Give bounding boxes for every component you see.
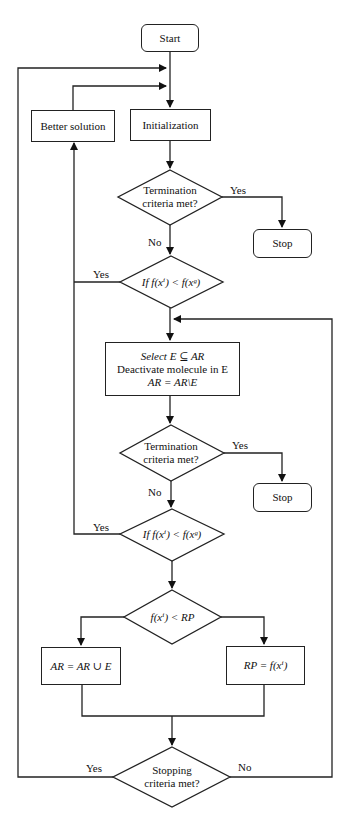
compare-2-text: If f(xⁱ) < f(xᵍ) — [143, 528, 201, 540]
termination-2-label: Termination criteria met? — [121, 440, 221, 466]
termination-2-line-1: Termination — [121, 440, 221, 453]
stop-node-1: Stop — [253, 229, 312, 258]
edge-label-t1-yes: Yes — [230, 184, 246, 196]
compare-rp-text: f(xⁱ) < RP — [151, 611, 195, 623]
better-solution-label: Better solution — [40, 120, 105, 133]
stopping-line-2: criteria met? — [122, 777, 222, 790]
start-label: Start — [160, 32, 181, 45]
initialization-label: Initialization — [142, 119, 198, 132]
edge-label-c2-yes: Yes — [93, 521, 109, 533]
edge-label-t2-no: No — [148, 486, 161, 498]
edge-label-t2-yes: Yes — [232, 439, 248, 451]
termination-2-line-2: criteria met? — [121, 453, 221, 466]
edge-label-c1-yes: Yes — [93, 268, 109, 280]
termination-1-line-1: Termination — [120, 184, 220, 197]
edge-label-t1-no: No — [148, 236, 161, 248]
select-line-3: AR = AR\E — [148, 376, 197, 389]
compare-1-label: If f(xⁱ) < f(xᵍ) — [120, 276, 222, 289]
stop-node-2: Stop — [253, 483, 312, 512]
better-solution-node: Better solution — [31, 110, 115, 142]
edge-label-stop-no: No — [238, 761, 251, 773]
compare-2-label: If f(xⁱ) < f(xᵍ) — [121, 528, 223, 541]
select-line-2: Deactivate molecule in E — [117, 363, 228, 376]
termination-1-line-2: criteria met? — [120, 197, 220, 210]
stop-label-2: Stop — [272, 491, 292, 504]
compare-1-text: If f(xⁱ) < f(xᵍ) — [142, 276, 200, 288]
select-line-1: Select E ⊆ AR — [141, 350, 205, 363]
stopping-label: Stopping criteria met? — [122, 764, 222, 790]
edge-label-stop-yes: Yes — [86, 762, 102, 774]
stop-label-1: Stop — [272, 237, 292, 250]
termination-1-label: Termination criteria met? — [120, 184, 220, 210]
rp-assign-label: RP = f(xⁱ) — [244, 659, 288, 672]
ar-union-node: AR = AR ∪ E — [41, 647, 121, 685]
start-node: Start — [141, 24, 199, 52]
compare-rp-label: f(xⁱ) < RP — [124, 611, 221, 624]
ar-union-label: AR = AR ∪ E — [50, 660, 111, 673]
stopping-line-1: Stopping — [122, 764, 222, 777]
rp-assign-node: RP = f(xⁱ) — [226, 646, 305, 685]
initialization-node: Initialization — [130, 109, 211, 141]
select-node: Select E ⊆ AR Deactivate molecule in E A… — [105, 342, 240, 396]
